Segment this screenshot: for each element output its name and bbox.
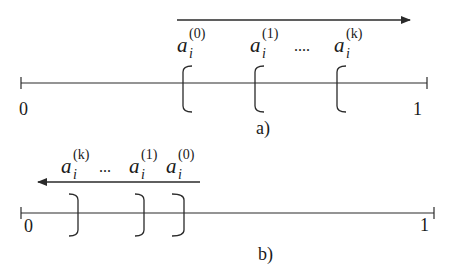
panel-b: a i (k) ... a i (1) a i (0) 0 1 b) bbox=[21, 147, 434, 265]
interval-diagram: a i (0) a i (1) .... a i (k) 0 1 a) bbox=[0, 0, 453, 272]
svg-text:a: a bbox=[250, 33, 261, 57]
right-bracket-1 bbox=[135, 194, 144, 236]
axis-label-zero: 0 bbox=[19, 99, 28, 119]
svg-text:(1): (1) bbox=[262, 26, 279, 42]
left-bracket-1 bbox=[255, 66, 264, 112]
label-a-i-0: a i (0) bbox=[177, 26, 206, 61]
label-a-i-1: a i (1) bbox=[250, 26, 279, 61]
svg-text:a: a bbox=[61, 154, 72, 178]
svg-text:a: a bbox=[334, 33, 345, 57]
right-bracket-0 bbox=[172, 194, 184, 236]
left-bracket-k bbox=[337, 66, 346, 112]
svg-text:(k): (k) bbox=[73, 147, 90, 163]
axis-label-one: 1 bbox=[413, 99, 422, 119]
left-bracket-0 bbox=[183, 66, 192, 112]
right-bracket-k bbox=[69, 194, 78, 236]
axis-label-zero: 0 bbox=[24, 216, 33, 236]
label-a-i-0: a i (0) bbox=[166, 147, 195, 182]
svg-text:(0): (0) bbox=[189, 26, 206, 42]
panel-a: a i (0) a i (1) .... a i (k) 0 1 a) bbox=[19, 20, 427, 139]
svg-text:i: i bbox=[189, 46, 193, 61]
label-a-i-1: a i (1) bbox=[129, 147, 158, 182]
svg-text:(1): (1) bbox=[141, 147, 158, 163]
svg-text:(k): (k) bbox=[346, 26, 363, 42]
svg-text:a: a bbox=[177, 33, 188, 57]
ellipsis: .... bbox=[294, 37, 310, 54]
svg-text:a: a bbox=[129, 154, 140, 178]
label-a-i-k: a i (k) bbox=[334, 26, 363, 61]
axis-label-one: 1 bbox=[420, 215, 429, 235]
ellipsis: ... bbox=[99, 158, 111, 175]
caption-a: a) bbox=[256, 118, 270, 139]
svg-text:i: i bbox=[141, 167, 145, 182]
svg-text:i: i bbox=[73, 167, 77, 182]
label-a-i-k: a i (k) bbox=[61, 147, 90, 182]
caption-b: b) bbox=[258, 244, 273, 265]
svg-text:i: i bbox=[346, 46, 350, 61]
svg-text:(0): (0) bbox=[178, 147, 195, 163]
svg-text:a: a bbox=[166, 154, 177, 178]
svg-text:i: i bbox=[262, 46, 266, 61]
svg-text:i: i bbox=[178, 167, 182, 182]
